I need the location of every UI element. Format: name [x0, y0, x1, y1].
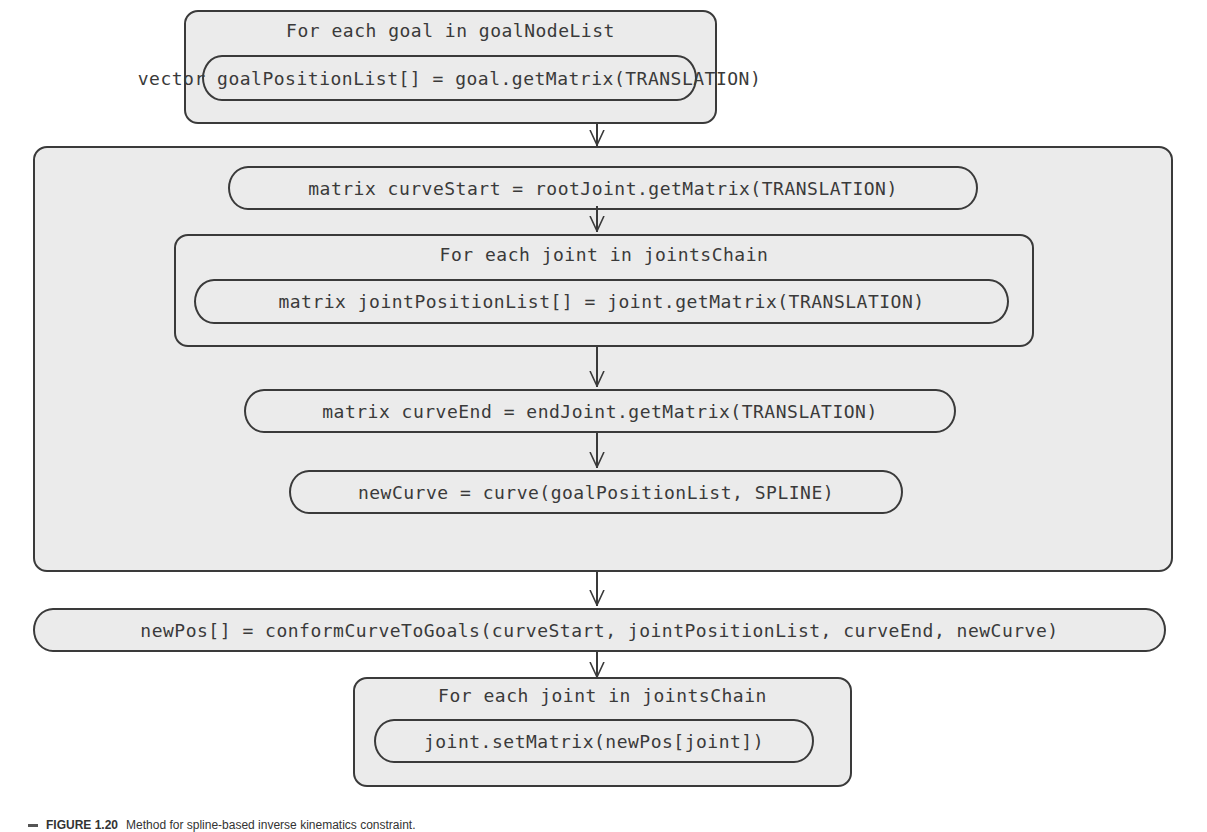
curve-end-statement: matrix curveEnd = endJoint.getMatrix(TRA…: [244, 389, 956, 433]
joint-loop-title: For each joint in jointsChain: [176, 244, 1032, 265]
goal-loop-box: For each goal in goalNodeList vector goa…: [184, 10, 717, 124]
goal-loop-title: For each goal in goalNodeList: [186, 20, 715, 41]
figure-label: FIGURE 1.20: [46, 818, 118, 832]
conform-curve-statement: newPos[] = conformCurveToGoals(curveStar…: [33, 608, 1166, 652]
joint-position-statement: matrix jointPositionList[] = joint.getMa…: [194, 279, 1009, 324]
set-matrix-loop-box: For each joint in jointsChain joint.setM…: [353, 677, 852, 787]
curve-start-statement: matrix curveStart = rootJoint.getMatrix(…: [228, 166, 978, 210]
caption-text: Method for spline-based inverse kinemati…: [126, 818, 415, 832]
caption-marker-icon: [28, 824, 38, 827]
joint-loop-box: For each joint in jointsChain matrix joi…: [174, 234, 1034, 347]
figure-caption: FIGURE 1.20Method for spline-based inver…: [28, 818, 416, 832]
new-curve-statement: newCurve = curve(goalPositionList, SPLIN…: [289, 470, 903, 514]
main-block: matrix curveStart = rootJoint.getMatrix(…: [33, 146, 1173, 572]
set-loop-title: For each joint in jointsChain: [355, 685, 850, 706]
set-matrix-statement: joint.setMatrix(newPos[joint]): [374, 719, 814, 763]
goal-position-statement: vector goalPositionList[] = goal.getMatr…: [202, 55, 697, 101]
